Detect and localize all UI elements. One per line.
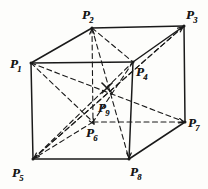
edge-P1-P2 <box>31 28 92 63</box>
vertex-label-p1: P1 <box>10 55 21 73</box>
vertex-label-p3: P3 <box>186 6 197 24</box>
diagonal-P5-P3 <box>33 26 184 159</box>
edge-P8-P7 <box>129 122 185 159</box>
vertex-label-p9: P9 <box>98 99 109 117</box>
vertex-label-subscript-p8: 8 <box>137 172 141 182</box>
edge-P4-P1 <box>31 62 133 63</box>
hidden-edge-P2-P6 <box>92 28 93 122</box>
diagonal-P5-P4 <box>33 62 133 159</box>
vertex-label-subscript-p2: 2 <box>89 15 93 25</box>
vertex-label-p2: P2 <box>82 6 93 24</box>
diagonal-P1-P6 <box>31 63 93 122</box>
vertex-label-p8: P8 <box>130 163 141 181</box>
vertex-label-subscript-p7: 7 <box>195 123 199 133</box>
vertex-label-p7: P7 <box>188 114 199 132</box>
edge-P4-P8 <box>129 62 133 159</box>
vertex-label-subscript-p9: 9 <box>105 108 109 118</box>
vertex-label-subscript-p1: 1 <box>17 64 21 74</box>
vertex-label-subscript-p5: 5 <box>19 173 23 183</box>
cube-diagonals-group <box>31 26 185 159</box>
edge-P3-P7 <box>184 26 185 122</box>
vertex-label-p6: P6 <box>86 124 97 142</box>
vertex-dot-p1 <box>30 62 33 65</box>
cube-diagram: P1P2P3P4P5P6P7P8P9 <box>0 0 208 189</box>
vertex-label-subscript-p3: 3 <box>193 15 197 25</box>
diagonal-P2-P8 <box>92 28 129 159</box>
vertex-label-subscript-p6: 6 <box>93 133 97 143</box>
vertex-dot-p4 <box>132 61 135 64</box>
vertex-label-p4: P4 <box>136 63 147 81</box>
vertex-label-subscript-p4: 4 <box>143 72 147 82</box>
diagonal-P2-P4 <box>92 28 133 62</box>
edge-P2-P3 <box>92 26 184 28</box>
hidden-edge-P6-P5 <box>33 122 93 159</box>
center-cross-group <box>102 83 112 93</box>
cube-vector-graphic <box>0 0 208 189</box>
vertex-label-p5: P5 <box>12 164 23 182</box>
edge-P3-P4 <box>133 26 184 62</box>
edge-P1-P5 <box>31 63 33 159</box>
